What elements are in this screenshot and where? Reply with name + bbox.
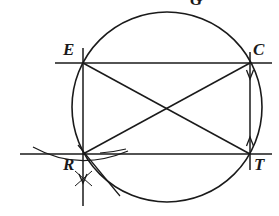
construction-arc-sweep-icon bbox=[78, 145, 120, 196]
geometry-canvas bbox=[0, 0, 279, 216]
vertex-label-C: C bbox=[253, 41, 264, 58]
construction-arc-tick-icon bbox=[100, 149, 126, 153]
main-circle bbox=[72, 12, 262, 202]
vertex-label-R: R bbox=[63, 156, 74, 173]
geometry-figure: E C R T G bbox=[0, 0, 279, 216]
vertex-label-T: T bbox=[254, 156, 264, 173]
clipped-top-label: G bbox=[190, 0, 202, 8]
vertex-label-E: E bbox=[63, 41, 74, 58]
